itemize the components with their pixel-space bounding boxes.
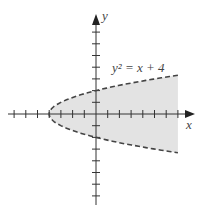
coordinate-plane [0,0,200,216]
x-axis-label: x [186,117,192,133]
y-axis-arrow-icon [92,14,100,25]
equation-label: y² = x + 4 [112,60,164,76]
y-axis-label: y [102,8,108,24]
